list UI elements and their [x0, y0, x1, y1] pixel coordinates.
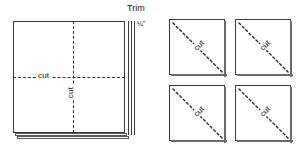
- cutting-diagram: cut cut Trim ¼" cut cut: [0, 0, 304, 154]
- trim-measurement-label: ¼": [137, 20, 145, 28]
- cut-square-bottom-right: cut: [235, 85, 291, 141]
- fabric-layer-edge: [17, 136, 129, 139]
- trim-edge-line: [128, 21, 129, 135]
- vertical-cut-line: [73, 21, 74, 133]
- horizontal-cut-label: cut: [36, 71, 51, 80]
- stacked-fabric-panel: cut cut Trim ¼": [0, 0, 152, 154]
- trim-edge-line: [134, 21, 135, 135]
- vertical-cut-label: cut: [66, 85, 75, 100]
- trim-strip: [128, 21, 135, 135]
- trim-label: Trim: [127, 3, 145, 14]
- cut-square-top-right: cut: [235, 19, 291, 75]
- four-squares-panel: cut cut cut cut: [152, 0, 304, 154]
- cut-square-bottom-left: cut: [169, 85, 225, 141]
- cut-square-top-left: cut: [169, 19, 225, 75]
- horizontal-cut-line: [13, 77, 125, 78]
- trim-edge-line: [131, 21, 132, 135]
